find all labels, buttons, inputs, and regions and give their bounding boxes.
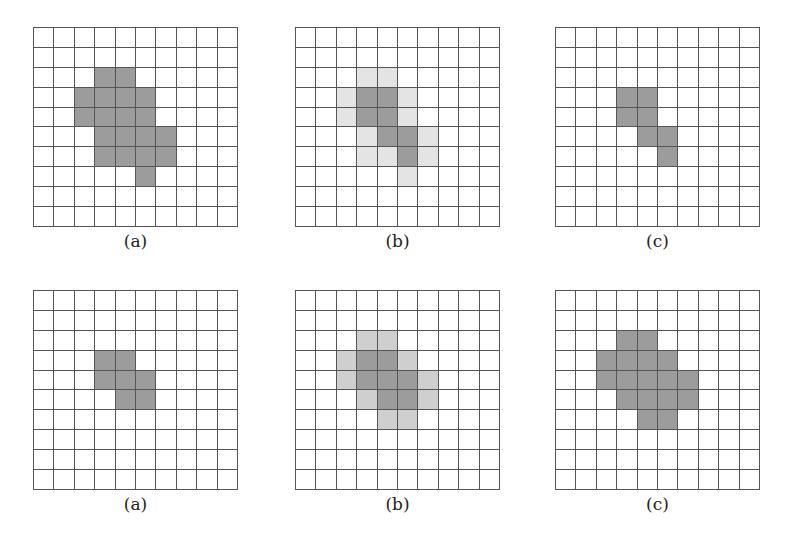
grid-cell bbox=[398, 410, 418, 430]
panel-top-b: (b) bbox=[295, 27, 501, 227]
grid-cell bbox=[658, 371, 678, 391]
grid-cell bbox=[156, 127, 176, 147]
grid-cell bbox=[378, 390, 398, 410]
grid-cell bbox=[218, 470, 238, 490]
grid-cell bbox=[597, 331, 617, 351]
grid-cell bbox=[617, 390, 637, 410]
grid-cell bbox=[378, 207, 398, 227]
grid-cell bbox=[439, 127, 459, 147]
grid-cell bbox=[638, 108, 658, 128]
grid-cell bbox=[136, 207, 156, 227]
grid-cell bbox=[197, 187, 217, 207]
grid-cell bbox=[699, 167, 719, 187]
grid-cell bbox=[316, 127, 336, 147]
grid-cell bbox=[34, 167, 54, 187]
grid-cell bbox=[617, 371, 637, 391]
grid-cell bbox=[719, 68, 739, 88]
grid-cell bbox=[699, 390, 719, 410]
grid-cell bbox=[296, 48, 316, 68]
grid-cell bbox=[34, 410, 54, 430]
grid-cell bbox=[459, 127, 479, 147]
grid-cell bbox=[699, 331, 719, 351]
grid-cell bbox=[638, 28, 658, 48]
panel-top-a: (a) bbox=[33, 27, 239, 227]
grid-cell bbox=[480, 167, 500, 187]
grid-cell bbox=[337, 450, 357, 470]
grid-cell bbox=[54, 351, 74, 371]
grid-cell bbox=[556, 390, 576, 410]
grid-cell bbox=[459, 68, 479, 88]
grid-cell bbox=[54, 470, 74, 490]
grid-cell bbox=[337, 68, 357, 88]
grid-cell bbox=[597, 291, 617, 311]
grid-cell bbox=[459, 207, 479, 227]
grid-cell bbox=[617, 470, 637, 490]
grid-cell bbox=[597, 28, 617, 48]
grid-cell bbox=[197, 410, 217, 430]
grid-cell bbox=[617, 351, 637, 371]
grid-cell bbox=[439, 207, 459, 227]
grid-cell bbox=[296, 410, 316, 430]
grid-cell bbox=[136, 127, 156, 147]
grid-cell bbox=[480, 390, 500, 410]
grid-cell bbox=[556, 470, 576, 490]
grid-cell bbox=[34, 450, 54, 470]
grid-cell bbox=[480, 127, 500, 147]
grid-cell bbox=[398, 127, 418, 147]
grid-cell bbox=[480, 28, 500, 48]
grid-cell bbox=[316, 390, 336, 410]
grid-cell bbox=[378, 108, 398, 128]
grid-cell bbox=[54, 430, 74, 450]
grid-cell bbox=[116, 127, 136, 147]
grid-cell bbox=[95, 147, 115, 167]
grid-cell bbox=[357, 108, 377, 128]
grid-cell bbox=[337, 207, 357, 227]
grid-cell bbox=[95, 187, 115, 207]
grid-cell bbox=[197, 430, 217, 450]
grid-cell bbox=[296, 311, 316, 331]
grid-cell bbox=[719, 187, 739, 207]
grid-cell bbox=[177, 167, 197, 187]
panel-bottom-c: (c) bbox=[555, 290, 761, 490]
grid-cell bbox=[398, 331, 418, 351]
grid-cell bbox=[378, 470, 398, 490]
grid-cell bbox=[116, 68, 136, 88]
grid-cell bbox=[699, 68, 719, 88]
grid-cell bbox=[357, 28, 377, 48]
grid-cell bbox=[398, 351, 418, 371]
grid-cell bbox=[116, 390, 136, 410]
grid-cell bbox=[617, 48, 637, 68]
grid-cell bbox=[95, 331, 115, 351]
grid-cell bbox=[218, 410, 238, 430]
grid-cell bbox=[439, 147, 459, 167]
grid-cell bbox=[378, 311, 398, 331]
grid-cell bbox=[556, 410, 576, 430]
grid-cell bbox=[197, 108, 217, 128]
grid-cell bbox=[116, 28, 136, 48]
grid-cell bbox=[75, 167, 95, 187]
grid-cell bbox=[34, 331, 54, 351]
grid-cell bbox=[480, 311, 500, 331]
grid-cell bbox=[699, 147, 719, 167]
grid-cell bbox=[617, 108, 637, 128]
grid-cell bbox=[398, 371, 418, 391]
grid-cell bbox=[136, 331, 156, 351]
grid-cell bbox=[116, 187, 136, 207]
grid-cell bbox=[459, 28, 479, 48]
grid-cell bbox=[418, 68, 438, 88]
grid-cell bbox=[740, 450, 760, 470]
grid-cell bbox=[177, 88, 197, 108]
grid-cell bbox=[177, 28, 197, 48]
grid-cell bbox=[678, 48, 698, 68]
grid-cell bbox=[357, 68, 377, 88]
grid-cell bbox=[597, 311, 617, 331]
grid-cell bbox=[556, 371, 576, 391]
grid-cell bbox=[337, 430, 357, 450]
grid-cell bbox=[136, 167, 156, 187]
grid-cell bbox=[556, 28, 576, 48]
grid-cell bbox=[177, 390, 197, 410]
grid-cell bbox=[480, 291, 500, 311]
grid-cell bbox=[699, 207, 719, 227]
grid-cell bbox=[75, 108, 95, 128]
grid-cell bbox=[177, 187, 197, 207]
